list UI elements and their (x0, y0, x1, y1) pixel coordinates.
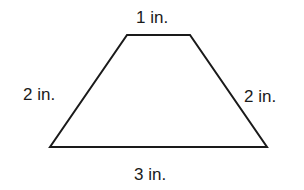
trapezoid-shape (50, 35, 267, 147)
left-side-label: 2 in. (23, 86, 55, 103)
top-side-label: 1 in. (136, 9, 168, 26)
diagram-canvas: 1 in. 2 in. 2 in. 3 in. (0, 0, 304, 190)
bottom-side-label: 3 in. (134, 166, 166, 183)
right-side-label: 2 in. (244, 88, 276, 105)
